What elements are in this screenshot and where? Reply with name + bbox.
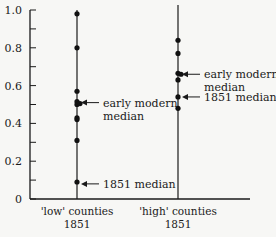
y-tick-label: 1.0 [5, 4, 23, 17]
category-labels: 'low' counties1851'high' counties1851 [41, 205, 217, 230]
data-point [74, 117, 79, 122]
data-point [175, 77, 180, 82]
data-point [74, 11, 79, 16]
data-point [74, 179, 79, 184]
chart: 00.20.40.60.81.0 early modernmedian1851 … [0, 0, 276, 237]
data-point [74, 45, 79, 50]
annotation-label: 1851 median [103, 178, 176, 191]
y-tick-label: 0 [15, 193, 22, 206]
category-label-year: 1851 [165, 218, 192, 230]
annotation-label: early modern [103, 97, 178, 110]
annotation-arrowhead [182, 71, 188, 77]
data-point [74, 138, 79, 143]
y-tick-label: 0.4 [5, 117, 23, 130]
annotation-arrowhead [81, 181, 87, 187]
data-point [175, 38, 180, 43]
data-point [74, 89, 79, 94]
category-label: 'high' counties [139, 205, 217, 217]
data-point [175, 51, 180, 56]
annotation-label-line2: median [103, 110, 144, 123]
annotation-label: 1851 median [204, 91, 276, 104]
annotation-label: early modern [204, 68, 276, 81]
y-tick-label: 0.6 [5, 80, 23, 93]
y-tick-label: 0.2 [5, 155, 23, 168]
y-axis: 00.20.40.60.81.0 [5, 4, 37, 206]
annotation-arrowhead [182, 94, 188, 100]
data-point [77, 101, 82, 106]
category-label-year: 1851 [64, 218, 91, 230]
category-label: 'low' counties [41, 205, 114, 217]
y-tick-label: 0.8 [5, 42, 23, 55]
